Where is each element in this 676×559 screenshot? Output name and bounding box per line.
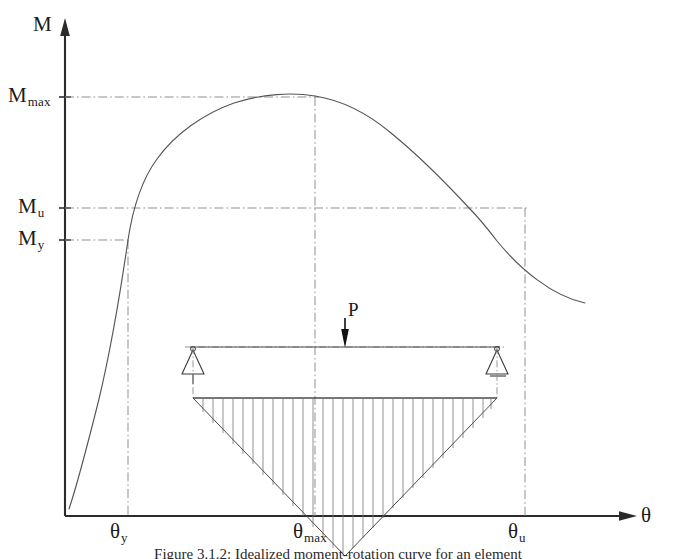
x-axis-label: θ — [641, 505, 651, 526]
axis-group — [59, 18, 637, 521]
guide-lines-group — [65, 97, 528, 516]
y-tick-label-my: My — [18, 228, 44, 249]
x-tick-label-theta-y-subscript: y — [120, 530, 128, 545]
point-load-label: P — [348, 300, 359, 319]
x-tick-label-theta-max: θmax — [293, 521, 327, 542]
y-tick-label-mu-subscript: u — [37, 205, 45, 220]
bending-moment-diagram — [193, 398, 497, 556]
moment-rotation-figure: M θ Mmax Mu My θy θmax θu P Figure 3.1.2… — [0, 0, 676, 559]
point-load-arrow — [341, 318, 349, 348]
figure-canvas — [0, 0, 676, 559]
inset-beam-diagram — [182, 318, 508, 556]
figure-caption: Figure 3.1.2: Idealized moment-rotation … — [0, 546, 676, 559]
bmd-hatching — [203, 399, 491, 556]
y-axis-arrowhead — [60, 18, 70, 36]
curve-rising-branch — [69, 94, 315, 509]
y-tick-label-mmax-subscript: max — [27, 94, 51, 109]
x-tick-label-theta-u: θu — [508, 521, 526, 542]
curve-descending-branch — [315, 96, 585, 303]
y-tick-label-my-subscript: y — [37, 237, 45, 252]
x-tick-label-theta-y: θy — [110, 521, 128, 542]
x-tick-label-theta-u-subscript: u — [518, 530, 526, 545]
y-tick-label-mmax: Mmax — [8, 85, 51, 106]
y-tick-label-mu: Mu — [18, 196, 44, 217]
bmd-triangle — [193, 398, 497, 556]
x-tick-label-theta-max-subscript: max — [303, 530, 327, 545]
moment-rotation-curve-group — [69, 94, 585, 509]
x-axis-arrowhead — [619, 511, 637, 520]
y-axis-label: M — [33, 14, 52, 35]
